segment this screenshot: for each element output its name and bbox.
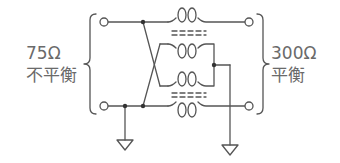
left-brace xyxy=(84,14,96,114)
right-bottom-terminal xyxy=(245,102,253,110)
junction-dot xyxy=(123,104,127,108)
left-bottom-terminal xyxy=(100,102,108,110)
junction-dot xyxy=(212,63,216,67)
circuit-diagram xyxy=(0,0,340,163)
junction-dot xyxy=(141,20,145,24)
bottom-transformer xyxy=(168,65,245,117)
right-ground-icon xyxy=(222,145,238,155)
junction-dot xyxy=(141,104,145,108)
left-top-terminal xyxy=(100,18,108,26)
top-transformer xyxy=(168,8,245,65)
right-brace xyxy=(257,14,269,114)
right-top-terminal xyxy=(245,18,253,26)
left-ground-icon xyxy=(117,140,133,150)
